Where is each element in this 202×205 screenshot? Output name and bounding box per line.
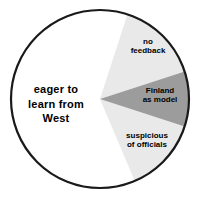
pie-diagram: eager to learn from West no feedback Fin… xyxy=(0,0,202,205)
pie-chart-svg xyxy=(0,0,202,205)
